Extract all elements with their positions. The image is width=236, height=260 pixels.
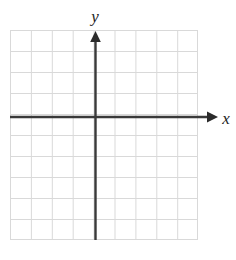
coordinate-plane-figure: y x bbox=[0, 0, 236, 260]
x-axis-arrowhead-icon bbox=[207, 111, 218, 122]
x-axis-label: x bbox=[221, 109, 230, 128]
coordinate-plane-svg: y x bbox=[0, 0, 236, 260]
y-axis-label: y bbox=[89, 7, 99, 26]
